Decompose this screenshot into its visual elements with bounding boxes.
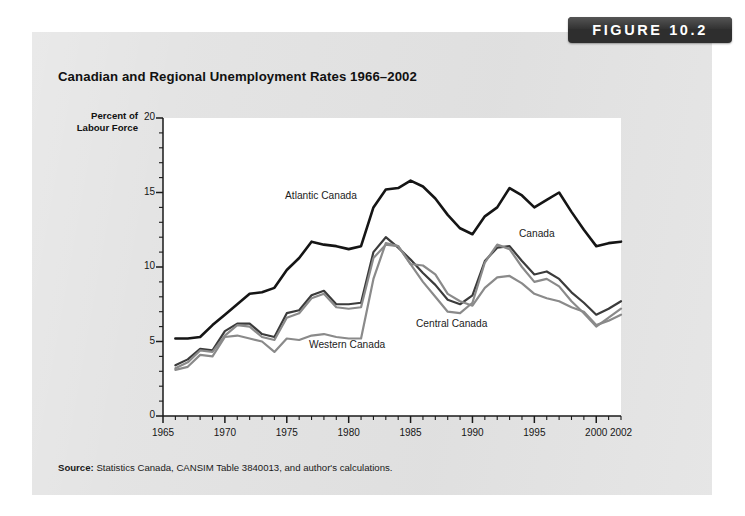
figure-page: FIGURE 10.2 Canadian and Regional Unempl…	[0, 0, 745, 516]
y-axis-title-line2: Labour Force	[40, 122, 138, 134]
y-axis-title: Percent of Labour Force	[40, 110, 138, 133]
source-text: Statistics Canada, CANSIM Table 3840013,…	[94, 462, 393, 473]
figure-number-badge: FIGURE 10.2	[568, 17, 732, 43]
chart-title: Canadian and Regional Unemployment Rates…	[58, 69, 417, 84]
figure-panel	[32, 32, 712, 495]
figure-number-label: FIGURE 10.2	[592, 22, 708, 38]
source-note: Source: Statistics Canada, CANSIM Table …	[58, 462, 392, 473]
y-axis-title-line1: Percent of	[40, 110, 138, 122]
source-label: Source:	[58, 462, 94, 473]
